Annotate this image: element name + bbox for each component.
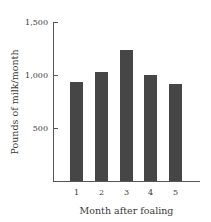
y-tick-label-500: 500 [33, 124, 48, 133]
x-tick-label-1: 1 [70, 188, 83, 197]
x-tick-label-3: 3 [120, 188, 133, 197]
x-tick-label-2: 2 [95, 188, 108, 197]
y-tick-label-1500: 1,500 [25, 18, 48, 27]
y-tick-1500 [53, 22, 58, 23]
y-tick-500 [53, 128, 58, 129]
x-tick-label-5: 5 [169, 188, 182, 197]
x-tick-label-4: 4 [144, 188, 157, 197]
bar-month-2 [95, 72, 108, 181]
x-axis-title: Month after foaling [53, 205, 200, 216]
y-axis-title: Pounds of milk/month [9, 49, 20, 154]
y-tick-label-1000: 1,000 [25, 71, 48, 80]
bar-month-4 [144, 75, 157, 181]
x-axis [53, 181, 200, 182]
y-axis [53, 22, 54, 182]
bar-month-3 [120, 50, 133, 181]
bar-month-5 [169, 84, 182, 181]
bar-month-1 [70, 82, 83, 181]
y-tick-1000 [53, 75, 58, 76]
